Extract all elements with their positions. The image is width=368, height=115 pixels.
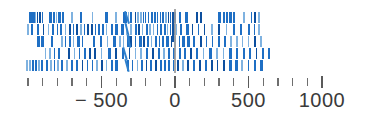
data-tick [27,24,29,35]
data-tick [68,48,70,59]
data-tick [108,48,111,59]
data-tick [139,36,142,47]
data-tick [211,24,213,35]
data-tick [212,36,214,47]
data-tick [260,60,263,71]
data-tick [102,24,104,35]
axis-tick-minor [307,78,308,86]
data-tick [71,12,73,23]
data-tick [80,24,82,35]
data-tick [105,12,108,23]
axis-tick-minor [86,78,87,86]
data-tick [121,24,124,35]
data-tick [91,24,93,35]
data-tick [142,24,144,35]
data-tick [82,60,84,71]
data-tick [92,12,94,23]
axis-tick-minor [277,78,278,86]
data-tick [43,24,45,35]
data-tick [200,36,202,47]
data-tick [39,12,41,23]
data-tick [52,24,54,35]
axis-tick-minor [42,78,43,86]
axis-tick-minor [57,78,58,86]
data-tick [157,12,159,23]
data-tick [243,48,246,59]
data-tick [268,48,270,59]
data-tick [141,60,143,71]
data-tick [182,36,185,47]
data-tick [254,12,256,23]
data-tick [230,36,232,47]
data-tick [258,24,260,35]
data-tick [198,24,200,35]
data-tick [160,60,163,71]
data-tick [71,60,73,71]
data-tick [240,24,242,35]
data-tick [184,48,186,59]
data-tick [162,36,164,47]
data-tick [243,12,245,23]
data-tick [186,24,189,35]
data-tick [236,48,238,59]
data-tick [155,60,157,71]
data-tick [46,60,48,71]
data-tick [143,36,145,47]
data-tick [209,48,212,59]
data-tick [145,12,147,23]
data-tick [93,36,96,47]
data-tick [49,48,51,59]
axis-tick-minor [189,78,190,86]
data-tick [65,24,67,35]
data-tick [218,24,220,35]
data-tick [218,36,220,47]
data-tick [254,24,256,35]
data-tick [182,60,184,71]
data-tick [69,24,71,35]
data-tick [107,36,109,47]
data-tick [190,48,192,59]
data-tick [135,36,137,47]
strip-row [0,60,368,71]
data-tick [58,12,61,23]
data-tick [87,24,89,35]
data-tick [115,60,118,71]
data-tick [218,12,221,23]
data-tick [129,48,131,59]
data-tick [96,60,98,71]
data-tick [41,60,43,71]
data-tick [32,60,34,71]
data-tick [84,24,86,35]
data-tick [29,60,31,71]
data-tick [199,60,201,71]
data-tick [249,48,251,59]
data-tick [149,24,151,35]
axis-tick-major [248,76,250,88]
data-tick [69,36,71,47]
data-tick [152,48,154,59]
data-tick [158,48,160,59]
data-tick [113,36,116,47]
data-tick [217,60,219,71]
data-tick [229,48,232,59]
data-tick [196,12,198,23]
data-tick [150,60,152,71]
data-tick [224,36,226,47]
data-tick [151,36,153,47]
axis-tick-minor [292,78,293,86]
data-tick [80,12,82,23]
data-tick [84,48,87,59]
data-tick [119,36,121,47]
data-tick [159,36,161,47]
data-tick [76,60,78,71]
data-tick [140,48,142,59]
data-tick [111,60,113,71]
data-tick [101,48,103,59]
data-tick [177,60,179,71]
data-tick [48,24,50,35]
data-tick [50,60,52,71]
data-tick [115,24,118,35]
data-tick [176,24,178,35]
data-tick [162,12,164,23]
data-tick [146,60,148,71]
